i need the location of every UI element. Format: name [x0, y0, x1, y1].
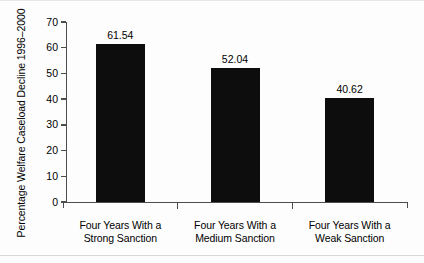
category-label-line-1: Four Years With a — [309, 219, 391, 231]
bar-value-label: 40.62 — [310, 83, 390, 95]
y-axis-tick — [61, 124, 66, 125]
x-axis-right-cap — [407, 202, 408, 208]
bar-value-label: 61.54 — [80, 29, 160, 41]
bar — [96, 44, 145, 202]
y-axis-tick — [61, 73, 66, 74]
y-axis-tick-label: 70 — [18, 17, 58, 28]
y-axis-tick — [61, 201, 66, 202]
y-axis-tick-label: 10 — [18, 171, 58, 182]
y-axis-line — [66, 22, 67, 203]
x-axis-tick — [177, 203, 178, 209]
bar — [211, 68, 260, 202]
x-axis-tick — [292, 203, 293, 209]
y-axis-tick — [61, 176, 66, 177]
category-label-line-2: Weak Sanction — [290, 232, 410, 245]
y-axis-tick-label: 40 — [18, 94, 58, 105]
y-axis-tick — [61, 21, 66, 22]
category-label-line-1: Four Years With a — [194, 219, 276, 231]
category-label-line-2: Strong Sanction — [60, 232, 180, 245]
bar — [325, 98, 374, 202]
scan-artifact-line-top — [0, 0, 424, 1]
y-axis-tick-label: 30 — [18, 119, 58, 130]
y-axis-tick-label: 60 — [18, 42, 58, 53]
x-axis-category-label: Four Years With aWeak Sanction — [290, 219, 410, 245]
y-axis-tick — [61, 98, 66, 99]
y-axis-tick — [61, 150, 66, 151]
y-axis-tick — [61, 47, 66, 48]
category-label-line-2: Medium Sanction — [175, 232, 295, 245]
x-axis-category-label: Four Years With aMedium Sanction — [175, 219, 295, 245]
x-axis-category-label: Four Years With aStrong Sanction — [60, 219, 180, 245]
y-axis-tick-label: 20 — [18, 145, 58, 156]
bar-value-label: 52.04 — [195, 53, 275, 65]
y-axis-tick-label: 0 — [18, 197, 58, 208]
x-axis-left-cap — [63, 202, 64, 208]
y-axis-tick-label: 50 — [18, 68, 58, 79]
scan-artifact-line-bottom — [0, 255, 424, 256]
x-axis-line — [63, 202, 408, 203]
category-label-line-1: Four Years With a — [79, 219, 161, 231]
bar-chart: Percentage Welfare Caseload Decline 1996… — [0, 0, 424, 263]
